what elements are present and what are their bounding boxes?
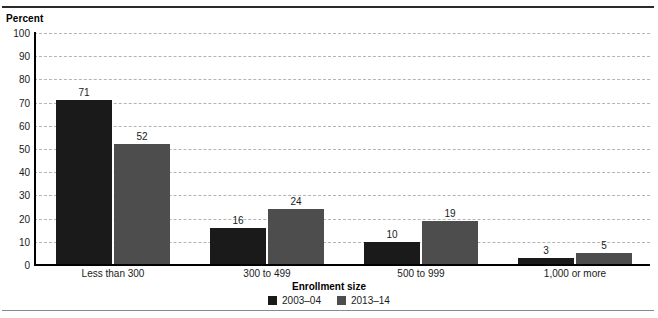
category-label: 500 to 999 bbox=[397, 268, 444, 279]
legend-item: 2013–14 bbox=[337, 295, 390, 306]
category-label: Less than 300 bbox=[82, 268, 145, 279]
bar-value-label: 3 bbox=[543, 245, 549, 256]
bar-group: 1019 bbox=[364, 33, 478, 265]
y-axis-title: Percent bbox=[6, 13, 43, 24]
y-tick-label: 10 bbox=[4, 236, 30, 247]
legend-label: 2003–04 bbox=[282, 295, 321, 306]
bar-group: 1624 bbox=[210, 33, 324, 265]
category-label: 300 to 499 bbox=[243, 268, 290, 279]
chart-legend: 2003–042013–14 bbox=[0, 295, 658, 306]
y-tick-label: 20 bbox=[4, 213, 30, 224]
x-axis-title: Enrollment size bbox=[0, 281, 658, 292]
bar-value-label: 5 bbox=[601, 240, 607, 251]
bar-value-label: 19 bbox=[444, 208, 455, 219]
bar: 24 bbox=[268, 209, 324, 265]
bar: 71 bbox=[56, 100, 112, 265]
legend-swatch bbox=[268, 296, 277, 305]
y-axis-tick-labels: 1009080706050403020100 bbox=[0, 33, 30, 265]
y-tick-label: 60 bbox=[4, 120, 30, 131]
chart-figure: Percent 1009080706050403020100 715216241… bbox=[0, 0, 658, 318]
y-tick-label: 90 bbox=[4, 51, 30, 62]
y-tick-label: 0 bbox=[4, 260, 30, 271]
bar-value-label: 24 bbox=[290, 196, 301, 207]
bar: 52 bbox=[114, 144, 170, 265]
legend-item: 2003–04 bbox=[268, 295, 321, 306]
bar-value-label: 10 bbox=[386, 229, 397, 240]
legend-swatch bbox=[337, 296, 346, 305]
y-tick-label: 30 bbox=[4, 190, 30, 201]
bar-group: 35 bbox=[518, 33, 632, 265]
bottom-divider bbox=[2, 310, 654, 311]
bar: 10 bbox=[364, 242, 420, 265]
x-axis-line bbox=[34, 264, 650, 266]
y-axis-line bbox=[34, 32, 36, 266]
bar-value-label: 16 bbox=[232, 215, 243, 226]
y-tick-label: 50 bbox=[4, 144, 30, 155]
y-tick-label: 80 bbox=[4, 74, 30, 85]
y-tick-label: 40 bbox=[4, 167, 30, 178]
bar-value-label: 52 bbox=[136, 131, 147, 142]
y-tick-label: 70 bbox=[4, 97, 30, 108]
y-tick-label: 100 bbox=[4, 28, 30, 39]
top-divider bbox=[2, 6, 654, 8]
bar: 19 bbox=[422, 221, 478, 265]
bar-group: 7152 bbox=[56, 33, 170, 265]
legend-label: 2013–14 bbox=[351, 295, 390, 306]
category-label: 1,000 or more bbox=[544, 268, 606, 279]
bar: 16 bbox=[210, 228, 266, 265]
plot-area: 71521624101935 bbox=[34, 33, 650, 265]
bar-value-label: 71 bbox=[78, 87, 89, 98]
